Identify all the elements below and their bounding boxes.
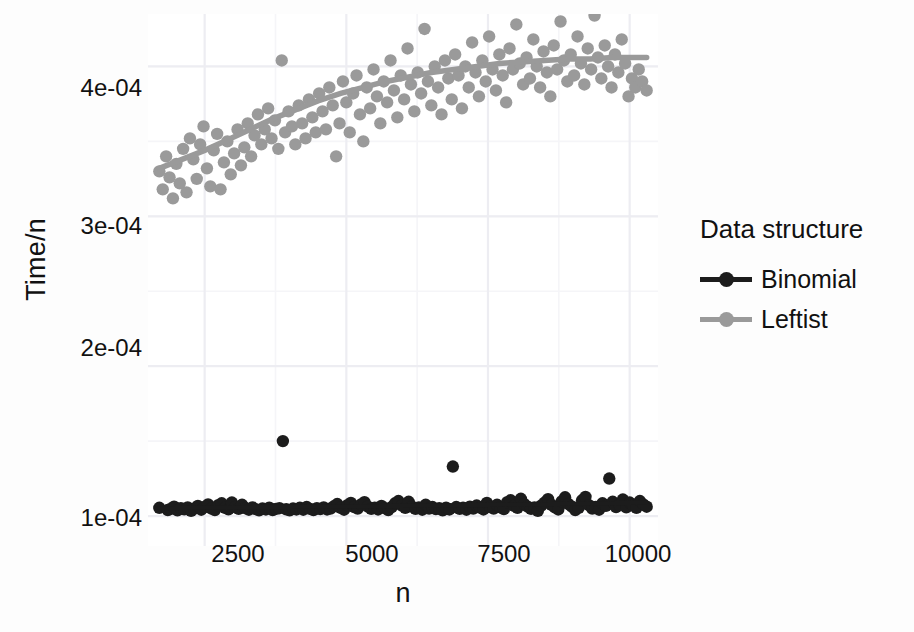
chart-figure: 4e-04 3e-04 2e-04 1e-04 Time/n 2500 5000… — [0, 0, 914, 632]
x-tick-label-7500: 7500 — [444, 540, 564, 568]
legend-key-binomial-icon — [700, 264, 752, 294]
series-leftist-points — [153, 14, 653, 205]
x-axis-title: n — [148, 578, 658, 609]
x-tick-label-2500: 2500 — [178, 540, 298, 568]
x-tick-label-5000: 5000 — [312, 540, 432, 568]
legend-label-binomial: Binomial — [761, 265, 857, 294]
legend-item-binomial[interactable]: Binomial — [700, 259, 910, 299]
plot-svg — [148, 14, 658, 546]
x-tick-label-10000: 10000 — [578, 540, 698, 568]
plot-panel — [148, 14, 658, 546]
legend: Data structure Binomial Leftist — [700, 214, 910, 339]
y-tick-label-1e-04: 1e-04 — [32, 504, 142, 532]
legend-key-leftist-icon — [700, 304, 752, 334]
legend-title: Data structure — [700, 214, 910, 245]
y-tick-label-4e-04: 4e-04 — [32, 74, 142, 102]
legend-label-leftist: Leftist — [761, 305, 828, 334]
y-axis-title: Time/n — [21, 160, 52, 360]
legend-item-leftist[interactable]: Leftist — [700, 299, 910, 339]
